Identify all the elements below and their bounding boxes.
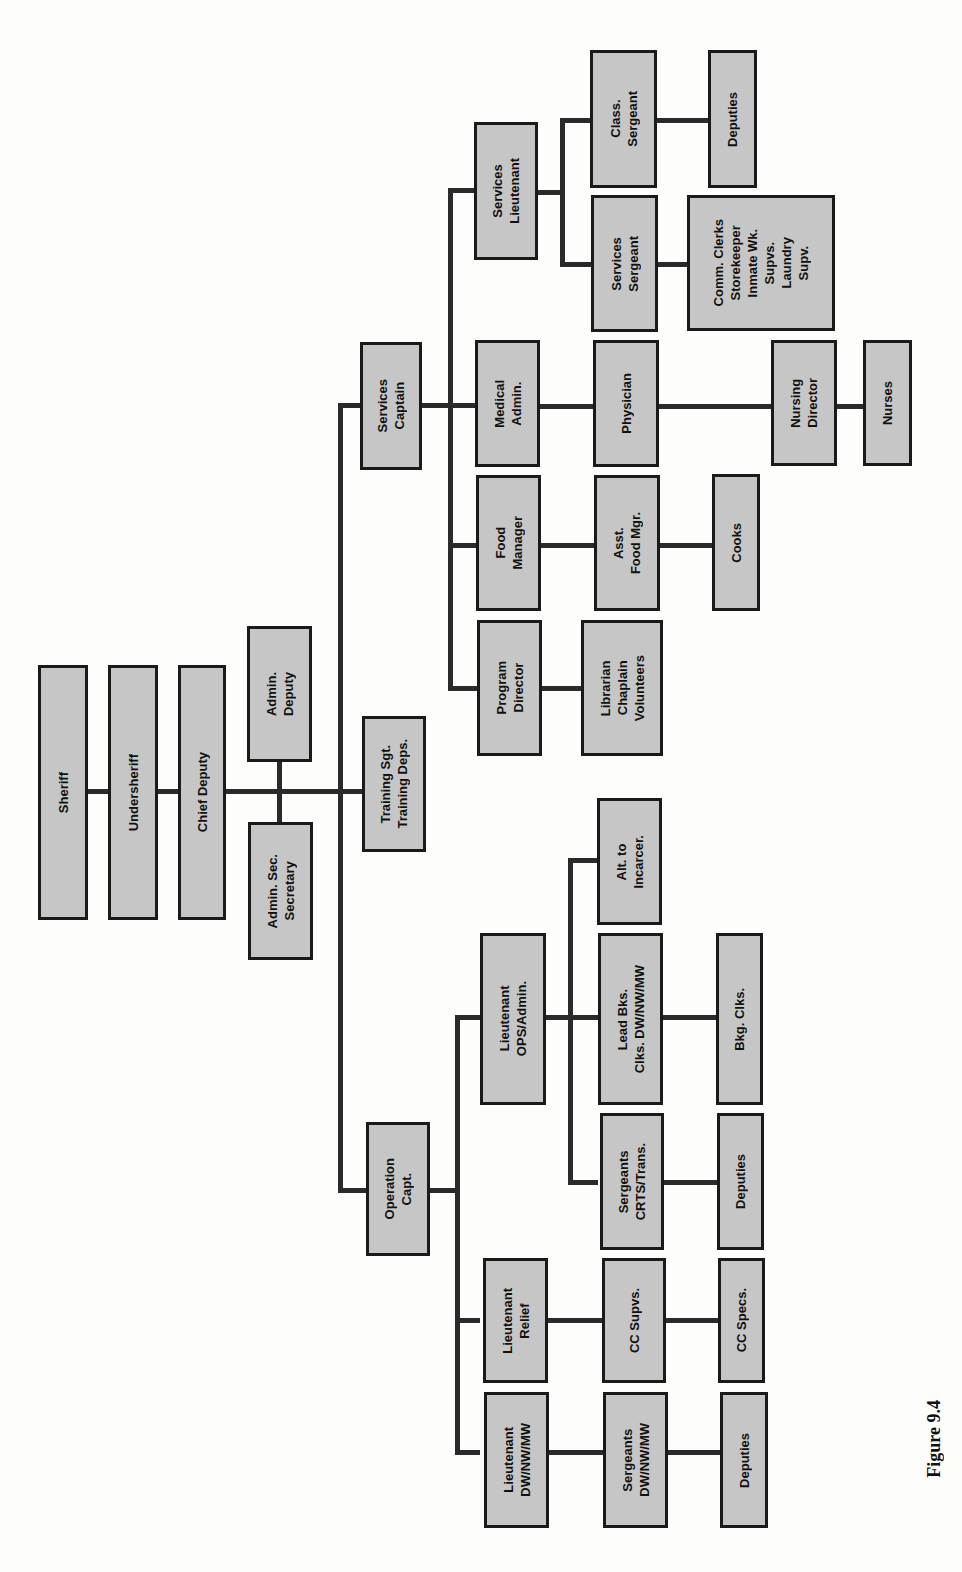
connector-to-lt-relief [455,1318,480,1323]
node-label: Class. Sergeant [607,91,641,147]
node-label: Services Captain [374,379,408,433]
connector-services-trunk [448,188,453,691]
node-alt-incarcer: Alt. to Incarcer. [597,798,662,925]
connector-to-services-captain [338,403,362,408]
node-label: CC Specs. [733,1288,750,1352]
connector-svc-sgt-clerks [655,262,689,267]
node-label: Nurses [879,381,896,425]
node-undersheriff: Undersheriff [108,665,158,920]
connector-to-lt-ops [455,1015,480,1020]
node-label: Training Sgt. Training Deps. [377,739,411,829]
connector-to-svc-sgt [560,262,592,267]
connector-class-deputies [655,118,710,123]
figure-caption: Figure 9.4 [924,1400,945,1478]
connector-to-class-sgt [560,118,592,123]
node-lt-ops-admin: Lieutenant OPS/Admin. [480,933,546,1105]
node-food-manager: Food Manager [476,475,541,611]
node-label: Asst. Food Mgr. [610,512,644,574]
node-label: Admin. Deputy [263,672,297,716]
node-class-deputies: Deputies [708,50,757,188]
node-sgt-crts: Sergeants CRTS/Trans. [600,1113,664,1250]
connector-svclt-trunk [560,118,565,266]
node-services-sergeant: Services Sergeant [591,195,658,332]
connector-to-program [448,686,478,691]
node-lt-relief: Lieutenant Relief [483,1258,548,1383]
node-label: Deputies [724,92,741,147]
connector-to-food [448,543,478,548]
node-services-lieutenant: Services Lieutenant [474,122,538,260]
connector-to-operation-capt [338,1188,368,1193]
node-label: Undersheriff [125,754,142,831]
node-label: Lieutenant Relief [499,1288,533,1354]
node-asst-food-mgr: Asst. Food Mgr. [594,475,660,611]
node-label: Food Manager [492,516,526,569]
node-label: Medical Admin. [491,380,525,428]
node-services-captain: Services Captain [360,342,422,470]
node-label: Nursing Director [787,378,821,428]
node-label: CC Supvs. [626,1288,643,1353]
connector-svc-captain-out [420,403,480,408]
node-label: Comm. Clerks Storekeeper Inmate Wk. Supv… [710,219,812,306]
connector-ops-out [428,1188,458,1193]
connector-admin [277,762,282,822]
connector-program-chain [540,686,582,691]
node-program-director: Program Director [477,620,542,756]
connector-lead-bkg [660,1015,718,1020]
node-label: Sergeants CRTS/Trans. [615,1143,649,1220]
node-label: Cooks [728,523,745,563]
node-sheriff: Sheriff [38,665,88,920]
node-class-sergeant: Class. Sergeant [590,50,657,188]
node-nursing-director: Nursing Director [771,340,837,466]
node-admin-secretary: Admin. Sec. Secretary [248,822,313,960]
connector-to-sgt-crts [568,1180,598,1185]
node-sgt-dw: Sergeants DW/NW/MW [603,1392,668,1528]
node-admin-deputy: Admin. Deputy [247,626,312,762]
node-label: Services Sergeant [608,236,642,292]
node-operation-capt: Operation Capt. [366,1122,430,1256]
node-lead-bkg: Lead Bks. Clks. DW/NW/MW [598,933,663,1105]
node-bkg-clks: Bkg. Clks. [716,933,763,1105]
node-lt-dw: Lieutenant DW/NW/MW [484,1392,549,1528]
node-label: Chief Deputy [194,752,211,832]
node-cc-specs: CC Specs. [718,1258,765,1383]
node-label: Admin. Sec. Secretary [264,854,298,928]
node-label: Sheriff [55,772,72,813]
node-crts-deputies: Deputies [717,1113,764,1250]
node-librarian: Librarian Chaplain Volunteers [581,620,663,756]
node-label: Librarian Chaplain Volunteers [597,655,648,721]
node-training: Training Sgt. Training Deps. [362,716,426,852]
org-chart: Sheriff Undersheriff Chief Deputy Admin.… [0,0,962,1572]
node-label: Alt. to Incarcer. [613,835,647,889]
node-label: Lieutenant DW/NW/MW [500,1423,534,1497]
node-cooks: Cooks [712,474,760,611]
node-label: Services Lieutenant [489,158,523,224]
connector-captains-trunk [338,403,343,1193]
node-label: Bkg. Clks. [731,988,748,1051]
connector-ltops-trunk [568,858,573,1183]
connector-to-svc-lt [448,188,476,193]
node-physician: Physician [593,340,659,467]
node-nurses: Nurses [863,340,912,466]
node-cc-supvs: CC Supvs. [602,1258,666,1383]
node-label: Program Director [493,661,527,714]
connector-to-alt [568,858,598,863]
node-label: Lieutenant OPS/Admin. [496,981,530,1056]
node-dw-deputies: Deputies [720,1392,768,1528]
node-label: Deputies [732,1154,749,1209]
node-label: Sergeants DW/NW/MW [619,1423,653,1497]
connector-ops-trunk [455,1015,460,1455]
node-label: Lead Bks. Clks. DW/NW/MW [614,965,648,1073]
connector-crts-deputies [660,1180,718,1185]
node-chief-deputy: Chief Deputy [178,665,226,920]
node-label: Deputies [736,1433,753,1488]
node-label: Operation Capt. [381,1158,415,1219]
node-comm-clerks: Comm. Clerks Storekeeper Inmate Wk. Supv… [687,195,835,331]
connector-to-lt-dw [455,1450,480,1455]
node-medical-admin: Medical Admin. [475,340,540,467]
node-label: Physician [618,373,635,434]
